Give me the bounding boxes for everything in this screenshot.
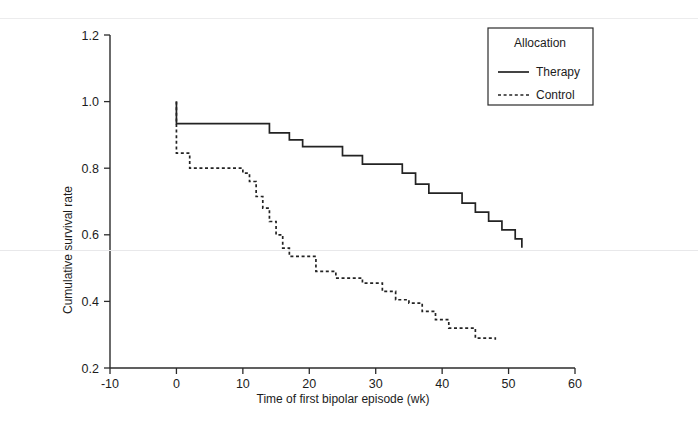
y-axis-ticks [104, 35, 110, 368]
x-axis-ticks [110, 368, 575, 374]
x-tick-label: -10 [101, 377, 119, 391]
legend-title: Allocation [514, 36, 566, 50]
x-tick-label: 60 [568, 377, 582, 391]
x-tick-label: 50 [502, 377, 516, 391]
scan-artifact-top [0, 18, 698, 19]
series-line-control [176, 102, 495, 340]
y-tick-label: 0.6 [82, 228, 99, 242]
x-axis-tick-labels: -100102030405060 [101, 377, 582, 391]
x-tick-label: 0 [173, 377, 180, 391]
y-tick-label: 0.2 [82, 362, 99, 376]
x-tick-label: 30 [369, 377, 383, 391]
y-tick-label: 1.0 [82, 95, 99, 109]
x-tick-label: 10 [236, 377, 250, 391]
y-axis-tick-labels: 0.20.40.60.81.01.2 [82, 29, 99, 376]
scan-artifact-middle [0, 250, 698, 251]
chart-canvas: 0.20.40.60.81.01.2 -100102030405060 Cumu… [0, 0, 698, 429]
legend: Allocation Therapy Control [488, 28, 593, 105]
y-tick-label: 0.8 [82, 162, 99, 176]
legend-label-control: Control [536, 88, 575, 102]
x-axis-title: Time of first bipolar episode (wk) [257, 392, 430, 406]
x-tick-label: 20 [302, 377, 316, 391]
y-tick-label: 1.2 [82, 29, 99, 43]
legend-label-therapy: Therapy [536, 65, 580, 79]
survival-chart-figure: 0.20.40.60.81.01.2 -100102030405060 Cumu… [0, 0, 698, 429]
series-line-therapy [176, 102, 521, 248]
x-tick-label: 40 [435, 377, 449, 391]
y-tick-label: 0.4 [82, 295, 99, 309]
